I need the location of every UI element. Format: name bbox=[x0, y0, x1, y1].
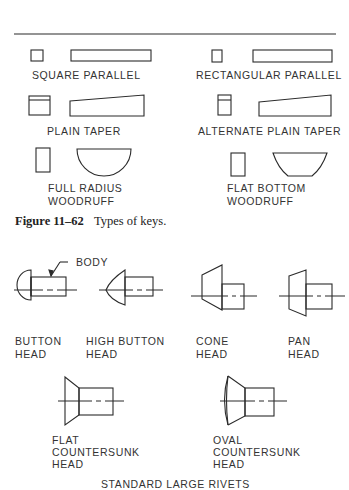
pan-head-label-line2: HEAD bbox=[288, 348, 320, 360]
oval-countersunk-head-rivet-drawing bbox=[220, 376, 287, 425]
full-radius-woodruff-label-line2: WOODRUFF bbox=[48, 195, 115, 207]
high-button-head-label-line2: HEAD bbox=[86, 348, 118, 360]
flat-countersunk-head-label-line3: HEAD bbox=[52, 458, 84, 470]
alternate-plain-taper-key-drawing bbox=[218, 95, 331, 116]
plain-taper-key-drawing bbox=[29, 95, 144, 116]
figure-caption-text: Types of keys. bbox=[94, 214, 166, 228]
pan-head-rivet-drawing bbox=[279, 270, 345, 316]
button-head-label-line1: BUTTON bbox=[15, 335, 62, 347]
rectangular-parallel-label: RECTANGULAR PARALLEL bbox=[196, 69, 342, 81]
flat-bottom-woodruff-label-line2: WOODRUFF bbox=[227, 195, 294, 207]
rivets-figure-title: STANDARD LARGE RIVETS bbox=[101, 478, 250, 490]
pan-head-label-line1: PAN bbox=[288, 335, 311, 347]
flat-bottom-woodruff-key-drawing bbox=[231, 153, 327, 176]
flat-countersunk-head-rivet-drawing bbox=[58, 377, 124, 425]
square-parallel-label: SQUARE PARALLEL bbox=[32, 69, 141, 81]
plain-taper-label: PLAIN TAPER bbox=[47, 125, 121, 137]
figure-number: Figure 11–62 bbox=[15, 214, 84, 228]
cone-head-label-line1: CONE bbox=[196, 335, 229, 347]
flat-countersunk-head-label-line1: FLAT bbox=[52, 434, 79, 446]
flat-countersunk-head-label-line2: COUNTERSUNK bbox=[52, 446, 140, 458]
body-callout-leader bbox=[49, 262, 68, 276]
alternate-plain-taper-label: ALTERNATE PLAIN TAPER bbox=[198, 125, 341, 137]
oval-countersunk-head-label-line2: COUNTERSUNK bbox=[213, 446, 301, 458]
body-callout-label: BODY bbox=[76, 256, 108, 268]
button-head-rivet-drawing bbox=[14, 270, 77, 300]
full-radius-woodruff-key-drawing bbox=[36, 148, 131, 176]
rectangular-parallel-key-drawing bbox=[212, 50, 332, 62]
square-parallel-key-drawing bbox=[31, 50, 151, 61]
oval-countersunk-head-label-line3: HEAD bbox=[213, 458, 245, 470]
high-button-head-rivet-drawing bbox=[99, 270, 163, 305]
full-radius-woodruff-label-line1: FULL RADIUS bbox=[48, 182, 122, 194]
oval-countersunk-head-label-line1: OVAL bbox=[213, 434, 243, 446]
cone-head-label-line2: HEAD bbox=[196, 348, 228, 360]
cone-head-rivet-drawing bbox=[191, 265, 257, 310]
high-button-head-label-line1: HIGH BUTTON bbox=[86, 335, 165, 347]
flat-bottom-woodruff-label-line1: FLAT BOTTOM bbox=[227, 182, 306, 194]
button-head-label-line2: HEAD bbox=[15, 348, 47, 360]
figure-caption: Figure 11–62Types of keys. bbox=[15, 214, 166, 229]
